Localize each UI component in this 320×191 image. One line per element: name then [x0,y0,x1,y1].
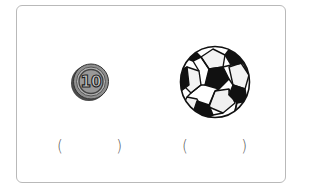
coin-label: 10 [81,73,102,91]
answer-slot-coin[interactable]: ( ) [57,136,122,156]
ten-coin-icon: 10 [70,62,110,102]
answer-slot-ball[interactable]: ( ) [182,136,247,156]
open-paren: ( [182,139,188,154]
open-paren: ( [57,139,63,154]
close-paren: ) [241,139,247,154]
close-paren: ) [116,139,122,154]
soccer-ball-icon [179,45,251,119]
